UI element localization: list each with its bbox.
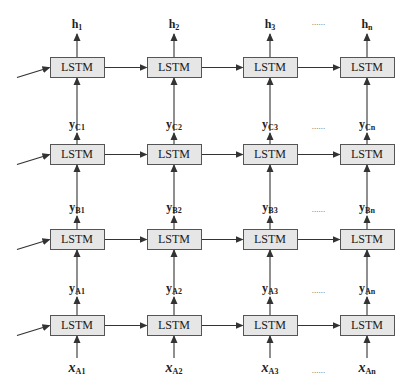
ellipsis-ya: ...... [312, 285, 326, 295]
lstm-cell-b-4: LSTM [340, 144, 395, 165]
lstm-cell-label: LSTM [351, 318, 383, 333]
lstm-cell-label: LSTM [158, 60, 190, 75]
label-yc-2: yC2 [166, 117, 182, 132]
ellipsis-xa: ...... [312, 365, 326, 375]
label-yb-2: yB2 [166, 200, 181, 215]
ellipsis-yb: ...... [312, 204, 326, 214]
lstm-cell-b-2: LSTM [147, 144, 202, 165]
label-ya-2: yA2 [166, 281, 182, 296]
lstm-cell-a2-2: LSTM [147, 229, 202, 250]
lstm-cell-c-2: LSTM [147, 57, 202, 78]
output-label-h-3: h3 [265, 17, 276, 32]
initial-state-arrow-c [17, 68, 50, 78]
stacked-lstm-diagram: LSTMLSTMLSTMLSTMLSTMLSTMLSTMLSTMLSTMLSTM… [0, 0, 414, 390]
label-xa-4: xAn [358, 360, 375, 376]
label-xa-2: xA2 [166, 360, 183, 376]
lstm-cell-label: LSTM [254, 60, 286, 75]
lstm-cell-label: LSTM [158, 147, 190, 162]
initial-state-arrow-a2 [17, 240, 50, 250]
label-yc-1: yC1 [69, 117, 85, 132]
label-ya-4: yAn [359, 281, 375, 296]
initial-state-arrow-b [17, 155, 50, 165]
label-yc-3: yC3 [262, 117, 278, 132]
initial-state-arrow-a1 [17, 326, 50, 336]
lstm-cell-label: LSTM [158, 318, 190, 333]
lstm-cell-label: LSTM [351, 60, 383, 75]
lstm-cell-a1-1: LSTM [50, 315, 105, 336]
label-ya-3: yA3 [262, 281, 278, 296]
ellipsis-h: ...... [312, 17, 326, 27]
lstm-cell-label: LSTM [61, 318, 93, 333]
lstm-cell-b-1: LSTM [50, 144, 105, 165]
lstm-cell-b-3: LSTM [243, 144, 298, 165]
label-ya-1: yA1 [69, 281, 85, 296]
output-label-h-4: hn [361, 17, 372, 32]
lstm-cell-label: LSTM [351, 232, 383, 247]
lstm-cell-label: LSTM [351, 147, 383, 162]
lstm-cell-label: LSTM [254, 147, 286, 162]
lstm-cell-c-3: LSTM [243, 57, 298, 78]
lstm-cell-a1-3: LSTM [243, 315, 298, 336]
output-label-h-2: h2 [169, 17, 180, 32]
lstm-cell-a1-2: LSTM [147, 315, 202, 336]
lstm-cell-label: LSTM [61, 60, 93, 75]
lstm-cell-a2-3: LSTM [243, 229, 298, 250]
lstm-cell-a2-1: LSTM [50, 229, 105, 250]
lstm-cell-label: LSTM [61, 232, 93, 247]
lstm-cell-label: LSTM [61, 147, 93, 162]
lstm-cell-label: LSTM [254, 318, 286, 333]
label-yc-4: yCn [359, 117, 375, 132]
ellipsis-yc: ...... [312, 121, 326, 131]
label-yb-3: yB3 [262, 200, 277, 215]
label-yb-1: yB1 [69, 200, 84, 215]
label-yb-4: yBn [359, 200, 375, 215]
lstm-cell-label: LSTM [158, 232, 190, 247]
lstm-cell-c-4: LSTM [340, 57, 395, 78]
label-xa-1: xA1 [69, 360, 86, 376]
label-xa-3: xA3 [262, 360, 279, 376]
output-label-h-1: h1 [72, 17, 83, 32]
lstm-cell-a1-4: LSTM [340, 315, 395, 336]
lstm-cell-a2-4: LSTM [340, 229, 395, 250]
lstm-cell-c-1: LSTM [50, 57, 105, 78]
lstm-cell-label: LSTM [254, 232, 286, 247]
